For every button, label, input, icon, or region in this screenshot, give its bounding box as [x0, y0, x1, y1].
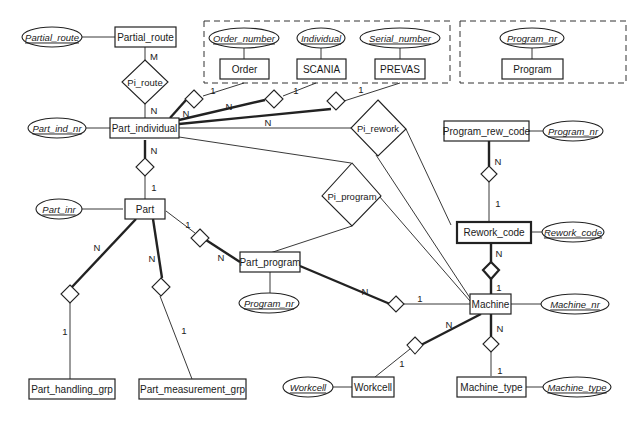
svg-text:Part: Part [136, 204, 155, 215]
relationship-scania [265, 90, 283, 108]
entity-part-handling-grp: Part_handling_grp [29, 379, 115, 399]
relationship-program-rework-code [481, 166, 497, 182]
attribute-part-inr: Part_inr [36, 199, 82, 219]
card-pp-m-n: N [362, 286, 369, 297]
card-pi-part-1: 1 [151, 182, 156, 193]
card-pi-part-n: N [151, 145, 158, 156]
card-part-mg-1: 1 [181, 325, 186, 336]
svg-text:Partial_route: Partial_route [117, 32, 174, 43]
svg-text:Pi_program: Pi_program [327, 191, 376, 202]
svg-text:Program_nr: Program_nr [548, 126, 599, 137]
svg-text:Individual: Individual [301, 33, 342, 44]
card-order-1: 1 [210, 85, 215, 96]
svg-text:Rework_code: Rework_code [463, 227, 525, 238]
svg-text:Pi_route: Pi_route [127, 77, 162, 88]
entity-part-measurement-grp: Part_measurement_grp [139, 379, 246, 399]
svg-text:Program_nr: Program_nr [507, 33, 558, 44]
svg-text:Program_rew_code: Program_rew_code [443, 126, 531, 137]
attribute-program-nr-part: Program_nr [239, 293, 299, 313]
svg-text:Program_nr: Program_nr [244, 298, 295, 309]
attribute-individual: Individual [297, 28, 345, 48]
entity-part: Part [125, 199, 165, 219]
entity-part-individual: Part_individual [110, 118, 179, 138]
svg-text:PREVAS: PREVAS [380, 64, 420, 75]
attribute-workcell: Workcell [283, 377, 333, 397]
relationship-part-program-machine [388, 296, 404, 312]
svg-text:Partial_route: Partial_route [25, 32, 79, 43]
relationship-pi-program: Pi_program [322, 163, 381, 226]
entity-part-program: Part_program [239, 252, 300, 272]
card-m-mt-n: N [497, 323, 504, 334]
card-rc-m-1: 1 [496, 282, 501, 293]
card-scania-1: 1 [293, 85, 298, 96]
svg-text:Program: Program [513, 64, 551, 75]
entity-scania: SCANIA [297, 59, 346, 79]
attribute-rework-code: Rework_code [542, 222, 604, 242]
entity-program-rew-code: Program_rew_code [443, 121, 531, 141]
card-part-mg-n: N [149, 253, 156, 264]
card-scania-n: N [226, 101, 233, 112]
relationship-part-handling [61, 285, 79, 303]
card-prevas-1: 1 [358, 84, 363, 95]
entity-machine-type: Machine_type [457, 377, 526, 397]
svg-text:Part_measurement_grp: Part_measurement_grp [140, 384, 245, 395]
relationship-machine-type [483, 336, 499, 352]
attribute-serial-number: Serial_number [360, 28, 440, 48]
svg-text:Part_individual: Part_individual [112, 123, 178, 134]
card-part-hg-n: N [94, 242, 101, 253]
card-part-hg-1: 1 [62, 326, 67, 337]
entity-partial-route: Partial_route [115, 27, 176, 47]
svg-text:Part_program: Part_program [239, 257, 300, 268]
card-m-wc-1: 1 [399, 358, 404, 369]
card-route-m: M [150, 51, 158, 62]
card-route-n: N [151, 105, 158, 116]
svg-text:Part_ind_nr: Part_ind_nr [32, 123, 82, 134]
entity-machine: Machine [470, 294, 511, 314]
attribute-machine-type: Machine_type [543, 377, 611, 397]
attribute-program-nr-rew: Program_nr [543, 121, 603, 141]
card-order-n: N [183, 108, 190, 119]
svg-text:Serial_number: Serial_number [369, 33, 432, 44]
relationship-order [185, 90, 203, 108]
card-prc-rc-n: N [495, 156, 502, 167]
card-part-pp-1: 1 [185, 219, 190, 230]
svg-text:Part_inr: Part_inr [42, 204, 76, 215]
svg-text:Order_number: Order_number [213, 33, 276, 44]
attribute-program-nr-group: Program_nr [500, 28, 564, 48]
svg-text:Workcell: Workcell [290, 382, 327, 393]
entity-prevas: PREVAS [375, 59, 425, 79]
svg-text:Order: Order [232, 64, 258, 75]
svg-text:Machine_nr: Machine_nr [550, 299, 600, 310]
relationship-part-individual-part [136, 158, 154, 176]
card-rc-m-n: N [496, 248, 503, 259]
attribute-order-number: Order_number [209, 28, 279, 48]
entity-rework-code: Rework_code [457, 222, 531, 243]
svg-text:Machine: Machine [472, 299, 510, 310]
svg-text:Workcell: Workcell [354, 382, 392, 393]
svg-text:Part_handling_grp: Part_handling_grp [31, 384, 113, 395]
svg-text:Machine_type: Machine_type [460, 382, 523, 393]
entity-workcell: Workcell [352, 377, 394, 397]
card-pp-m-1: 1 [417, 293, 422, 304]
attribute-machine-nr: Machine_nr [541, 294, 609, 314]
relationship-rework-code-machine [483, 262, 499, 279]
attribute-part-ind-nr: Part_ind_nr [28, 118, 86, 138]
relationship-prevas [327, 92, 345, 110]
relationship-machine-workcell [407, 337, 423, 354]
entity-program: Program [502, 59, 563, 79]
card-rework-n: N [265, 117, 272, 128]
svg-text:Machine_type: Machine_type [547, 382, 606, 393]
relationship-pi-route: Pi_route [122, 60, 168, 104]
card-m-wc-n: N [446, 319, 453, 330]
card-prc-rc-1: 1 [495, 198, 500, 209]
svg-text:Pi_rework: Pi_rework [357, 123, 399, 134]
card-part-pp-n: N [218, 252, 225, 263]
entity-order: Order [220, 59, 269, 79]
relationship-part-measurement [152, 278, 170, 296]
relationship-pi-rework: Pi_rework [351, 100, 406, 156]
svg-text:SCANIA: SCANIA [303, 64, 341, 75]
card-m-mt-1: 1 [497, 365, 502, 376]
er-diagram: Pi_route Pi_rework Pi_program [0, 0, 633, 423]
attribute-partial-route: Partial_route [22, 27, 82, 47]
svg-text:Rework_code: Rework_code [544, 227, 602, 238]
